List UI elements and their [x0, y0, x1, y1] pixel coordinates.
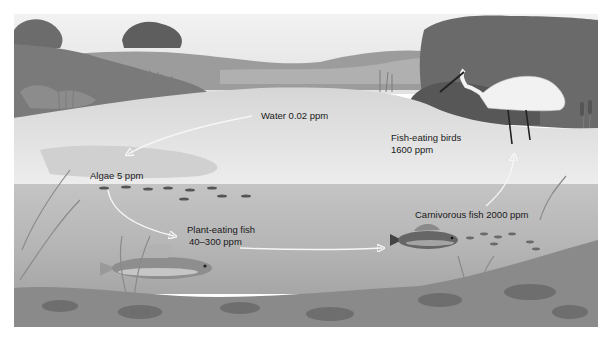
fish-eating-birds-label: Fish-eating birds	[391, 132, 461, 143]
plant-eating-fish-value: 40–300 ppm	[189, 236, 242, 247]
water-label: Water 0.02 ppm	[261, 110, 328, 121]
algae-label: Algae 5 ppm	[90, 170, 143, 181]
plant-eating-fish-label: Plant-eating fish	[187, 224, 255, 235]
lake-ecosystem-illustration	[0, 0, 612, 337]
carnivorous-fish-label: Carnivorous fish 2000 ppm	[415, 209, 529, 220]
fish-eating-birds-value: 1600 ppm	[391, 144, 433, 155]
